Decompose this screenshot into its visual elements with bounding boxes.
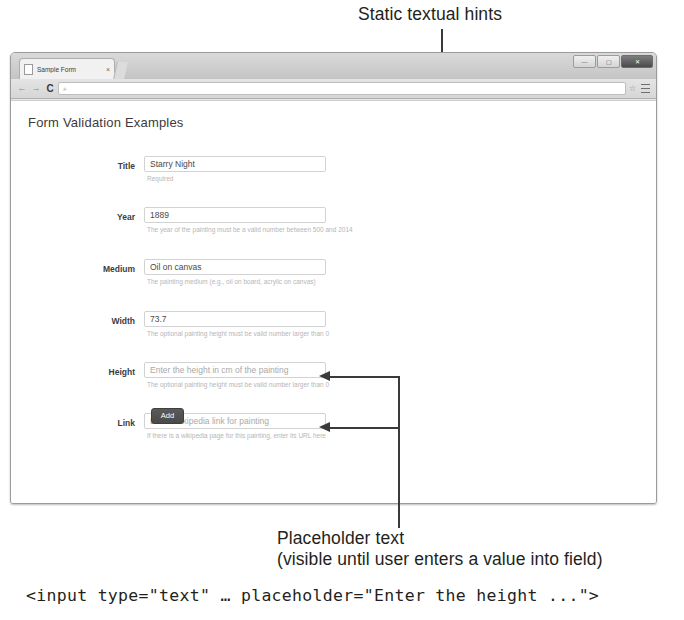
- year-input[interactable]: [144, 207, 326, 223]
- add-button[interactable]: Add: [151, 408, 184, 424]
- form-row-title: Title Required: [11, 156, 656, 196]
- width-input[interactable]: [144, 311, 326, 327]
- medium-input[interactable]: [144, 259, 326, 275]
- web-page-content: Form Validation Examples Title Required …: [11, 100, 656, 503]
- address-bar[interactable]: ⌕: [58, 82, 626, 95]
- window-controls: — ▢ ✕: [573, 55, 653, 68]
- browser-titlebar: Sample Form × — ▢ ✕: [11, 53, 656, 79]
- forward-icon[interactable]: →: [29, 84, 43, 93]
- browser-window: Sample Form × — ▢ ✕ ← → C ⌕ ☆ Form Valid…: [10, 52, 657, 504]
- hint-title: Required: [147, 175, 173, 182]
- placeholder-arrowhead-height: [319, 371, 330, 381]
- form-row-link: Link If there is a wikipedia page for th…: [11, 413, 656, 453]
- placeholder-leader-vertical: [398, 376, 400, 528]
- back-icon[interactable]: ←: [15, 84, 29, 93]
- placeholder-arrowhead-link: [319, 422, 330, 432]
- hint-width: The optional painting height must be val…: [147, 330, 329, 337]
- placeholder-callout-line1: Placeholder text: [277, 528, 603, 549]
- label-year: Year: [71, 212, 135, 222]
- hint-link: If there is a wikipedia page for this pa…: [147, 432, 326, 439]
- page-title: Form Validation Examples: [28, 115, 184, 130]
- label-title: Title: [71, 161, 135, 171]
- search-icon: ⌕: [63, 85, 67, 93]
- browser-tab-title: Sample Form: [37, 66, 103, 73]
- browser-toolbar: ← → C ⌕ ☆: [11, 79, 656, 99]
- form-row-medium: Medium The painting medium (e.g., oil on…: [11, 259, 656, 299]
- close-button[interactable]: ✕: [621, 55, 653, 68]
- form-row-width: Width The optional painting height must …: [11, 311, 656, 351]
- form-row-year: Year The year of the painting must be a …: [11, 207, 656, 247]
- form-row-height: Height The optional painting height must…: [11, 362, 656, 402]
- label-medium: Medium: [71, 264, 135, 274]
- hint-medium: The painting medium (e.g., oil on board,…: [147, 278, 316, 285]
- label-link: Link: [71, 418, 135, 428]
- placeholder-callout-line2: (visible until user enters a value into …: [277, 549, 603, 570]
- new-tab-button[interactable]: [113, 62, 128, 79]
- placeholder-callout: Placeholder text (visible until user ent…: [277, 528, 603, 570]
- browser-tab-sample-form[interactable]: Sample Form ×: [19, 58, 115, 79]
- label-height: Height: [71, 367, 135, 377]
- maximize-button[interactable]: ▢: [597, 55, 620, 68]
- page-icon: [24, 64, 33, 75]
- placeholder-leader-arm-height: [330, 376, 399, 378]
- label-width: Width: [71, 316, 135, 326]
- height-input[interactable]: [144, 362, 326, 378]
- title-input[interactable]: [144, 156, 326, 172]
- tab-close-icon[interactable]: ×: [103, 66, 110, 73]
- menu-icon[interactable]: [641, 84, 650, 93]
- static-hints-callout-label: Static textual hints: [358, 4, 502, 25]
- reload-icon[interactable]: C: [43, 84, 57, 94]
- hint-height: The optional painting height must be val…: [147, 381, 329, 388]
- bookmark-star-icon[interactable]: ☆: [629, 84, 636, 93]
- code-snippet: <input type="text" … placeholder="Enter …: [26, 586, 599, 605]
- hint-year: The year of the painting must be a valid…: [147, 226, 353, 233]
- minimize-button[interactable]: —: [573, 55, 596, 68]
- placeholder-leader-arm-link: [330, 427, 399, 429]
